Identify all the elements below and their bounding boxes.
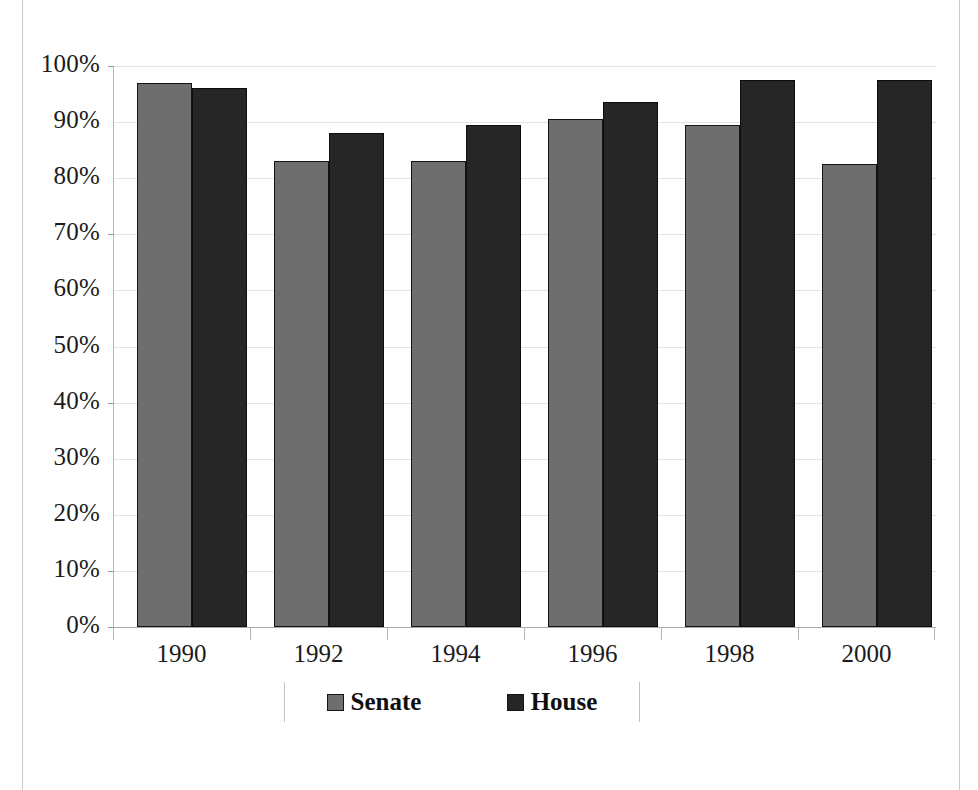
y-tick-label-40: 40% (0, 387, 100, 415)
y-tick-label-90: 90% (0, 106, 100, 134)
legend-swatch-house-icon (507, 694, 524, 711)
x-separator-6 (934, 627, 935, 640)
bar-senate-1992[interactable] (274, 161, 329, 627)
legend-right-rule (639, 682, 640, 722)
legend-item-house[interactable]: House (507, 688, 598, 716)
y-tick-label-60: 60% (0, 274, 100, 302)
bar-house-1990[interactable] (192, 88, 247, 627)
x-separator-3 (524, 627, 525, 640)
y-tick-label-0: 0% (0, 611, 100, 639)
legend-item-senate[interactable]: Senate (327, 688, 422, 716)
x-tick-label-1990: 1990 (113, 640, 250, 668)
bars-layer (114, 66, 935, 627)
y-tick-label-100: 100% (0, 50, 100, 78)
x-axis-separators (113, 627, 935, 641)
bar-senate-2000[interactable] (822, 164, 877, 627)
y-tick-label-10: 10% (0, 555, 100, 583)
legend-left-rule (284, 682, 285, 722)
bar-house-1992[interactable] (329, 133, 384, 627)
bar-house-1994[interactable] (466, 125, 521, 627)
bar-senate-1998[interactable] (685, 125, 740, 627)
x-tick-label-1992: 1992 (250, 640, 387, 668)
y-tick-label-50: 50% (0, 331, 100, 359)
y-tick-label-20: 20% (0, 499, 100, 527)
x-separator-5 (798, 627, 799, 640)
x-separator-2 (387, 627, 388, 640)
x-separator-4 (661, 627, 662, 640)
y-axis-labels: 100% 90% 80% 70% 60% 50% 40% 30% 20% 10%… (0, 66, 100, 627)
x-tick-label-2000: 2000 (798, 640, 935, 668)
x-axis-labels: 1990 1992 1994 1996 1998 2000 (113, 640, 935, 680)
grouped-bar-chart: 100% 90% 80% 70% 60% 50% 40% 30% 20% 10%… (0, 0, 978, 790)
legend-swatch-senate-icon (327, 694, 344, 711)
x-separator-0 (113, 627, 114, 640)
x-tick-label-1994: 1994 (387, 640, 524, 668)
bar-senate-1994[interactable] (411, 161, 466, 627)
x-separator-1 (250, 627, 251, 640)
bar-senate-1996[interactable] (548, 119, 603, 627)
x-tick-label-1996: 1996 (524, 640, 661, 668)
bar-house-1998[interactable] (740, 80, 795, 627)
chart-legend: Senate House (284, 678, 640, 726)
y-tick-label-30: 30% (0, 443, 100, 471)
bar-senate-1990[interactable] (137, 83, 192, 627)
bar-house-2000[interactable] (877, 80, 932, 627)
y-tick-label-80: 80% (0, 162, 100, 190)
x-tick-label-1998: 1998 (661, 640, 798, 668)
bar-house-1996[interactable] (603, 102, 658, 627)
legend-label-senate: Senate (351, 688, 422, 716)
legend-label-house: House (531, 688, 598, 716)
y-tick-label-70: 70% (0, 218, 100, 246)
